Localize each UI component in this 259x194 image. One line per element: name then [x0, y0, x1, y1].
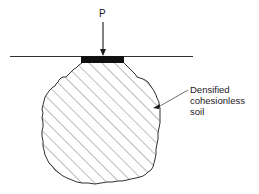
footing — [81, 56, 124, 63]
densified-soil-callout: Densified cohesionless soil — [190, 84, 245, 117]
callout-line-3: soil — [190, 106, 245, 117]
callout-line-2: cohesionless — [190, 95, 245, 106]
densified-zone — [30, 55, 170, 190]
load-label: P — [99, 8, 106, 19]
load-arrow-icon — [100, 22, 106, 56]
callout-line-1: Densified — [190, 84, 245, 95]
